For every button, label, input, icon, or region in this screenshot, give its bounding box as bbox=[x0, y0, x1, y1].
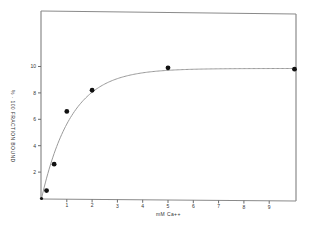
y-tick-label: 2 bbox=[33, 169, 36, 175]
data-point bbox=[64, 109, 69, 114]
y-tick-label: 10 bbox=[30, 63, 36, 69]
y-tick-label: 8 bbox=[33, 90, 36, 96]
x-tick-label: 6 bbox=[192, 203, 195, 209]
data-point bbox=[166, 65, 171, 70]
data-point bbox=[292, 67, 297, 72]
top-border bbox=[41, 11, 296, 14]
x-tick-label: 4 bbox=[141, 203, 144, 209]
data-point bbox=[52, 162, 57, 167]
fit-curve bbox=[42, 69, 295, 199]
y-tick-label: 4 bbox=[33, 143, 36, 149]
y-tick-label: 6 bbox=[33, 116, 36, 122]
data-points bbox=[40, 65, 297, 200]
data-point bbox=[40, 197, 43, 200]
x-tick-label: 1 bbox=[65, 202, 68, 208]
plot-frame bbox=[41, 11, 296, 201]
chart: 246810 123456789 mM Ca++ % · 100 FRACTIO… bbox=[0, 0, 310, 232]
x-tick-label: 7 bbox=[217, 203, 220, 209]
x-tick-label: 2 bbox=[91, 202, 94, 208]
data-point bbox=[90, 88, 95, 93]
x-axis-title: mM Ca++ bbox=[156, 211, 181, 217]
x-tick-label: 5 bbox=[167, 203, 170, 209]
x-tick-label: 9 bbox=[268, 204, 271, 210]
y-axis-title: % · 100 FRACTION BOUND bbox=[10, 90, 16, 162]
x-tick-label: 8 bbox=[243, 204, 246, 210]
y-ticks: 246810 bbox=[30, 63, 41, 175]
x-tick-label: 3 bbox=[116, 203, 119, 209]
data-point bbox=[44, 188, 49, 193]
